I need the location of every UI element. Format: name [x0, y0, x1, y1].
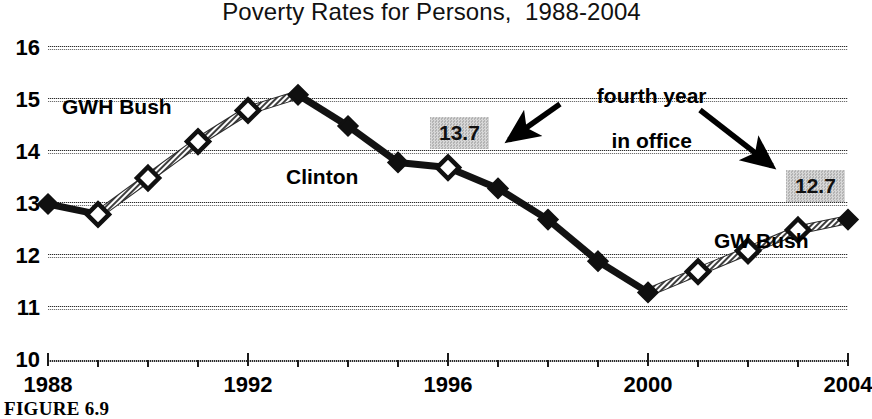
x-tick-label-2000: 2000: [624, 374, 673, 396]
x-tick-1999: [597, 360, 599, 367]
y-tick-label-13: 13: [0, 193, 40, 215]
segment-solid: [498, 188, 548, 219]
chart-title: Poverty Rates for Persons, 1988-2004: [0, 0, 863, 26]
segment-solid: [548, 220, 598, 262]
annotation-fourth-year: fourth year in office: [560, 62, 720, 175]
annotation-clinton: Clinton: [286, 166, 358, 189]
x-tick-2002: [747, 360, 749, 367]
fourth-year-line-1: fourth year: [597, 84, 707, 107]
x-tick-1994: [347, 360, 349, 367]
value-box-13-7: 13.7: [430, 117, 489, 149]
fourth-year-line-2: in office: [611, 129, 692, 152]
figure-caption: FIGURE 6.9: [4, 398, 109, 419]
y-tick-label-16: 16: [0, 37, 40, 59]
x-tick-2001: [697, 360, 699, 367]
x-tick-label-1988: 1988: [24, 374, 73, 396]
x-tick-label-1992: 1992: [224, 374, 273, 396]
y-tick-label-10: 10: [0, 349, 40, 371]
x-tick-1990: [147, 360, 149, 367]
x-tick-label-2004: 2004: [824, 374, 872, 396]
x-tick-1997: [497, 360, 499, 367]
annotation-gwh-bush: GWH Bush: [62, 96, 172, 119]
x-tick-label-1996: 1996: [424, 374, 473, 396]
x-tick-1993: [297, 360, 299, 367]
y-tick-label-11: 11: [0, 297, 40, 319]
value-box-12-7: 12.7: [786, 170, 845, 202]
x-tick-1991: [197, 360, 199, 367]
data-point-2004: [839, 211, 857, 229]
segment-solid: [598, 261, 648, 292]
y-tick-label-12: 12: [0, 245, 40, 267]
x-tick-1998: [547, 360, 549, 367]
segment-solid: [298, 95, 348, 126]
data-point-1996: [437, 157, 459, 179]
y-tick-label-15: 15: [0, 89, 40, 111]
x-tick-2003: [797, 360, 799, 367]
data-point-1988: [39, 195, 57, 213]
x-tick-1995: [397, 360, 399, 367]
segment-solid: [348, 126, 398, 162]
annotation-gw-bush: GW Bush: [714, 230, 809, 253]
x-tick-1989: [97, 360, 99, 367]
y-tick-label-14: 14: [0, 141, 40, 163]
